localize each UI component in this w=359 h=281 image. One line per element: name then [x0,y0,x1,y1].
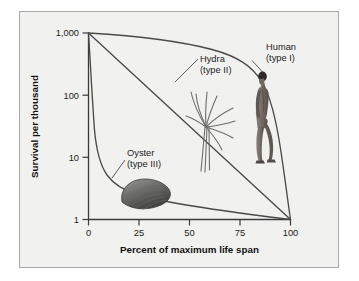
oyster-annotation: Oyster (type III) [127,148,161,169]
x-tick-label-0: 0 [86,228,91,238]
human-annotation: Human (type I) [266,42,296,63]
hydra-leader-line [175,59,198,82]
plot-area: 1,000 100 10 1 0 25 50 75 100 Percent of… [0,0,359,281]
x-tick-label-100: 100 [283,228,299,238]
human-label-line1: Human [266,42,296,52]
hydra-label-line2: (type II) [200,65,232,75]
human-label-line2: (type I) [266,53,295,63]
y-tick-label-1000: 1,000 [56,28,79,38]
human-figure-icon [256,72,277,164]
oyster-leader-line [112,160,125,178]
y-tick-labels: 1,000 100 10 1 [56,28,79,225]
oyster-shell-icon [122,179,171,210]
y-tick-label-100: 100 [63,91,79,101]
x-tick-label-75: 75 [235,228,245,238]
oyster-label-line2: (type III) [127,159,161,169]
chart-svg: 1,000 100 10 1 0 25 50 75 100 Percent of… [0,0,359,281]
x-axis-title: Percent of maximum life span [120,244,259,255]
hydra-annotation: Hydra (type II) [200,54,232,75]
y-tick-label-10: 10 [69,153,79,163]
x-tick-label-25: 25 [134,228,144,238]
survivorship-curve-figure: 1,000 100 10 1 0 25 50 75 100 Percent of… [0,0,359,281]
y-tick-label-1: 1 [74,215,79,225]
hydra-illustration-icon [186,92,235,172]
y-axis-title: Survival per thousand [29,75,40,178]
x-tick-label-50: 50 [184,228,194,238]
oyster-label-line1: Oyster [127,148,154,158]
x-tick-labels: 0 25 50 75 100 [86,228,298,238]
hydra-label-line1: Hydra [200,54,226,64]
